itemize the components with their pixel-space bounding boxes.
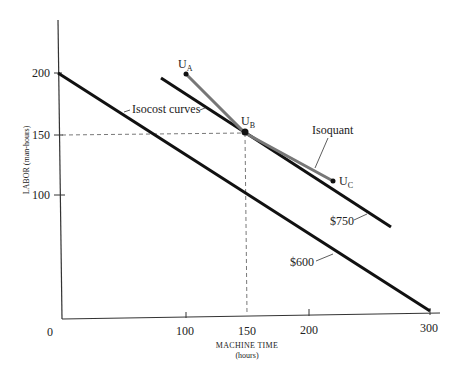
annotation-750: $750 bbox=[330, 214, 354, 228]
x-axis-subtitle: (hours) bbox=[235, 351, 258, 360]
isocost-750-line bbox=[161, 78, 391, 227]
label-600-leader bbox=[316, 254, 333, 261]
annotation-isocost-curves: Isocost curves bbox=[132, 102, 201, 116]
x-tick-label-150: 150 bbox=[238, 324, 256, 338]
isocost-leader-left bbox=[124, 110, 130, 112]
x-tick-label-200: 200 bbox=[300, 323, 318, 337]
y-tick-label-100: 100 bbox=[32, 188, 50, 202]
isoquant-line bbox=[186, 74, 333, 181]
y-tick-label-150: 150 bbox=[32, 128, 50, 142]
x-tick-label-300: 300 bbox=[420, 321, 438, 335]
x-axis-title: MACHINE TIME bbox=[216, 341, 278, 350]
y-axis bbox=[58, 20, 62, 319]
label-ua: UA bbox=[178, 57, 193, 73]
x-tick-label-0: 0 bbox=[47, 325, 53, 339]
label-ub: UB bbox=[241, 114, 255, 130]
isoquant-leader bbox=[315, 138, 328, 168]
isocost-leader bbox=[200, 108, 205, 110]
point-ub bbox=[242, 129, 249, 136]
y-tick-label-200: 200 bbox=[32, 66, 50, 80]
isoquant-chart: 200 150 100 0 100 150 200 300 MACHINE TI… bbox=[0, 0, 463, 370]
label-750-leader bbox=[354, 214, 367, 220]
annotation-isoquant: Isoquant bbox=[312, 123, 354, 137]
point-uc bbox=[331, 179, 336, 184]
label-uc: UC bbox=[339, 174, 353, 190]
isocost-600-line bbox=[58, 73, 430, 311]
x-axis bbox=[62, 313, 440, 319]
dashed-vertical-150 bbox=[245, 133, 247, 314]
annotation-600: $600 bbox=[290, 255, 314, 269]
x-tick-label-100: 100 bbox=[176, 324, 194, 338]
y-axis-title: LABOR (man-hours) bbox=[22, 125, 31, 194]
